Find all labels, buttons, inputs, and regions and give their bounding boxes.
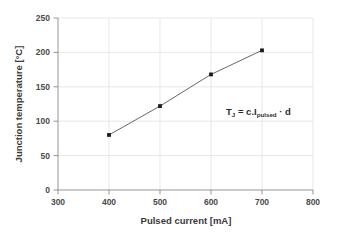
x-tick-labels: 300 400 500 600 700 800	[51, 197, 320, 207]
equation-tail: · d	[277, 106, 291, 117]
data-point	[158, 104, 162, 108]
equation-current-subscript: pulsed	[257, 111, 277, 118]
x-tick-label: 700	[255, 197, 269, 207]
x-axis-title: Pulsed current [mA]	[141, 215, 232, 226]
chart-canvas: 0 50 100 150 200 250 300 400 500 600 700…	[0, 0, 340, 236]
x-axis-ticks	[58, 190, 313, 195]
y-tick-label: 250	[36, 13, 50, 23]
y-tick-label: 0	[45, 185, 50, 195]
data-point	[209, 73, 213, 77]
x-tick-label: 300	[51, 197, 65, 207]
chart-figure: 0 50 100 150 200 250 300 400 500 600 700…	[0, 0, 340, 236]
x-tick-label: 800	[306, 197, 320, 207]
y-tick-label: 150	[36, 82, 50, 92]
y-tick-label: 200	[36, 47, 50, 57]
y-tick-label: 50	[41, 151, 51, 161]
y-tick-labels: 0 50 100 150 200 250	[36, 13, 50, 195]
y-tick-label: 100	[36, 116, 50, 126]
y-axis-ticks	[54, 18, 59, 190]
x-tick-label: 400	[102, 197, 116, 207]
x-tick-label: 600	[204, 197, 218, 207]
data-point	[107, 133, 111, 137]
y-axis-title: Junction temperature [°C]	[13, 46, 24, 163]
equation-operator: = c.I	[235, 106, 256, 117]
x-tick-label: 500	[153, 197, 167, 207]
plot-area-background	[58, 18, 313, 190]
data-point	[260, 48, 264, 52]
